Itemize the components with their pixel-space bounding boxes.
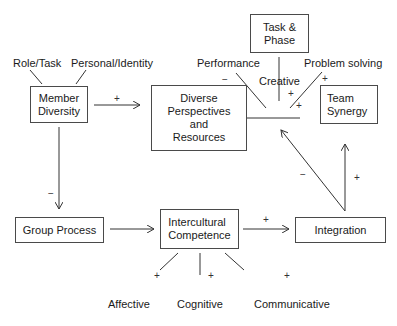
md-to-dp-sign: + (114, 94, 120, 104)
ic-to-int-sign: + (263, 215, 269, 225)
problem-solving-sign-2: + (296, 101, 302, 111)
group-process-node: Group Process (15, 217, 104, 243)
role-task-label: Role/Task (13, 57, 61, 69)
int-to-center-arrow (281, 130, 345, 211)
int-to-center-sign: − (300, 170, 306, 180)
team-synergy-node: Team Synergy (320, 85, 378, 124)
personal-identity-line (76, 70, 86, 84)
creative-sign: + (288, 89, 294, 99)
problem-solving-sign: + (322, 74, 328, 84)
personal-identity-label: Personal/Identity (71, 57, 153, 69)
communicative-sign: + (284, 271, 290, 281)
diverse-perspectives-node: Diverse Perspectives and Resources (151, 85, 247, 151)
cognitive-sign: + (208, 271, 214, 281)
affective-sign: + (154, 271, 160, 281)
intercultural-competence-node: Intercultural Competence (160, 209, 239, 249)
int-to-synergy-sign: + (354, 173, 360, 183)
creative-label: Creative (259, 75, 300, 87)
integration-node: Integration (295, 217, 386, 243)
affective-line (160, 253, 178, 270)
member-diversity-node: Member Diversity (30, 86, 88, 123)
cognitive-label: Cognitive (177, 298, 223, 310)
problem-solving-label: Problem solving (304, 57, 382, 69)
performance-label: Performance (197, 57, 260, 69)
performance-sign: − (222, 75, 228, 85)
task-phase-node: Task & Phase (250, 14, 309, 53)
communicative-label: Communicative (254, 298, 330, 310)
diagram-connectors (0, 0, 397, 326)
role-task-line (30, 70, 42, 84)
affective-label: Affective (108, 298, 150, 310)
communicative-line (225, 253, 244, 270)
md-to-gp-sign: − (48, 189, 54, 199)
